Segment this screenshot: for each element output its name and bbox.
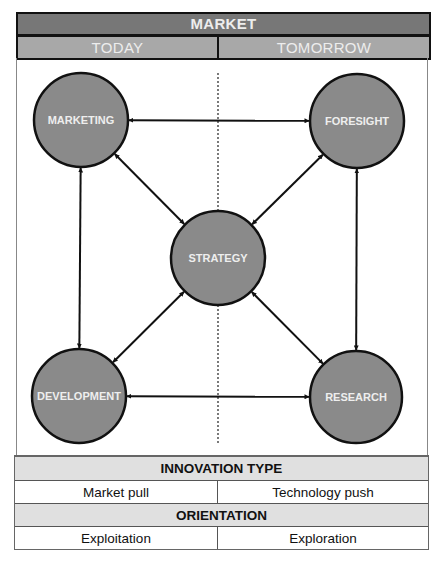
market-pull-cell: Market pull [15, 481, 218, 503]
technology-push-cell: Technology push [218, 481, 428, 503]
innovation-type-row: Market pull Technology push [15, 480, 428, 503]
node-label: STRATEGY [188, 252, 248, 264]
orientation-heading-text: ORIENTATION [176, 508, 267, 523]
node-label: DEVELOPMENT [37, 390, 121, 402]
exploration-cell: Exploration [218, 527, 428, 549]
node-development: DEVELOPMENT [32, 349, 126, 443]
arrow-research-strategy [252, 292, 323, 364]
node-label: MARKETING [48, 114, 115, 126]
arrow-marketing-development [79, 168, 80, 348]
nodes: MARKETINGFORESIGHTSTRATEGYDEVELOPMENTRES… [32, 73, 404, 443]
node-label: FORESIGHT [325, 115, 389, 127]
node-label: RESEARCH [325, 391, 387, 403]
node-marketing: MARKETING [34, 73, 128, 167]
exploitation-cell: Exploitation [15, 527, 218, 549]
orientation-row: Exploitation Exploration [15, 526, 428, 549]
arrow-development-strategy [113, 292, 184, 362]
orientation-heading: ORIENTATION [15, 503, 428, 526]
arrow-marketing-strategy [115, 154, 184, 224]
innovation-type-heading: INNOVATION TYPE [15, 457, 428, 480]
arrow-foresight-research [356, 169, 357, 350]
arrow-development-research [127, 396, 309, 397]
innovation-type-heading-text: INNOVATION TYPE [161, 461, 283, 476]
node-strategy: STRATEGY [171, 211, 265, 305]
classification-table: INNOVATION TYPE Market pull Technology p… [14, 455, 429, 550]
node-research: RESEARCH [310, 351, 402, 443]
arrow-marketing-foresight [129, 120, 309, 121]
node-foresight: FORESIGHT [310, 74, 404, 168]
arrow-foresight-strategy [252, 155, 323, 225]
